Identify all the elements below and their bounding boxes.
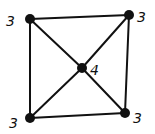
edge-tr-br xyxy=(125,15,129,113)
vertex-tl xyxy=(25,14,35,24)
vertex-bl xyxy=(25,113,35,123)
edge-br-bl xyxy=(30,113,125,118)
edge-tr-c xyxy=(82,15,129,68)
degree-label-c: 4 xyxy=(90,62,99,78)
degree-label-tr: 3 xyxy=(137,9,146,25)
edge-c-bl xyxy=(30,68,82,118)
edge-tl-tr xyxy=(30,15,129,19)
degree-label-br: 3 xyxy=(133,110,142,126)
degree-label-tl: 3 xyxy=(6,13,15,29)
vertex-br xyxy=(120,108,130,118)
edge-tl-c xyxy=(30,19,82,68)
degree-graph-diagram: 33334 xyxy=(0,0,155,134)
degree-label-bl: 3 xyxy=(9,115,18,131)
edge-c-br xyxy=(82,68,125,113)
vertex-tr xyxy=(124,10,134,20)
vertex-c xyxy=(77,63,87,73)
